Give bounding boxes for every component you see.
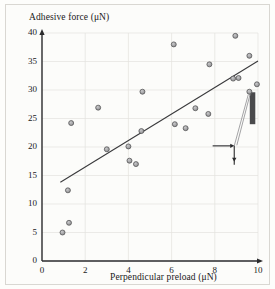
y-tick-label: 35 [19,56,37,66]
y-tick-label: 15 [19,170,37,180]
y-tick-label: 20 [19,141,37,151]
x-tick-label: 6 [165,265,179,275]
x-tick-label: 0 [35,265,49,275]
gridlines [42,33,258,261]
x-tick-label: 8 [208,265,222,275]
seta-surface-schematic [213,92,256,165]
chart-figure: Adhesive force (μN) Perpendicular preloa… [0,0,275,289]
y-tick-label: 5 [19,227,37,237]
y-tick-label: 25 [19,113,37,123]
x-tick-label: 10 [251,265,265,275]
y-tick-label: 30 [19,84,37,94]
x-tick-label: 2 [78,265,92,275]
scatter-plot [0,0,275,289]
y-tick-label: 10 [19,198,37,208]
data-points [60,33,259,235]
trendline [60,61,258,182]
y-tick-label: 40 [19,27,37,37]
x-tick-label: 4 [121,265,135,275]
y-tick-label: 0 [19,255,37,265]
